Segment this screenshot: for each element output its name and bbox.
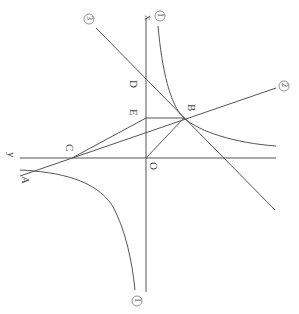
svg-text:1: 1 <box>133 298 142 302</box>
point-D-label: D <box>128 80 140 88</box>
line-3-label: 3 <box>84 14 94 24</box>
origin-label: O <box>148 162 160 170</box>
svg-text:3: 3 <box>85 16 94 20</box>
segment-CE <box>72 118 146 158</box>
x-axis-label: x <box>143 15 155 21</box>
svg-text:2: 2 <box>280 83 289 87</box>
segment-OB <box>146 118 184 158</box>
point-C-label: C <box>64 144 76 151</box>
hyperbola-branch-lower <box>20 170 135 290</box>
svg-text:1: 1 <box>156 13 165 17</box>
hyperbola-label-top: 1 <box>155 11 165 21</box>
hyperbola-branch-upper <box>158 26 276 146</box>
coordinate-diagram: x y O A B C D E 1 1 2 3 <box>0 0 299 314</box>
point-A-label: A <box>20 176 32 184</box>
line-2-label: 2 <box>279 81 289 91</box>
y-axis-label: y <box>6 152 18 158</box>
line-2 <box>20 88 276 176</box>
point-B-label: B <box>186 104 198 111</box>
point-E-label: E <box>128 109 140 116</box>
hyperbola-label-bottom: 1 <box>132 296 142 306</box>
